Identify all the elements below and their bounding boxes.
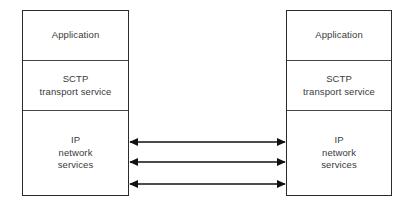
left-application-layer: Application [23,11,128,60]
right-endpoint-stack: Application SCTP transport service IP ne… [286,10,392,196]
left-transport-label-line1: SCTP [63,73,89,86]
right-transport-layer: SCTP transport service [287,60,391,110]
left-application-label: Application [52,29,100,42]
right-transport-label-line2: transport service [303,86,375,99]
right-network-label-line1: IP [334,134,343,147]
right-application-label: Application [315,29,363,42]
diagram-canvas: Application SCTP transport service IP ne… [0,0,413,210]
left-network-label-line2: network [59,147,93,160]
left-network-label-line1: IP [71,134,80,147]
right-application-layer: Application [287,11,391,60]
left-network-layer: IP network services [23,110,128,195]
right-transport-label-line1: SCTP [326,73,352,86]
network-path-connectors [129,10,286,196]
left-transport-label-line2: transport service [40,86,112,99]
right-network-layer: IP network services [287,110,391,195]
right-network-label-line2: network [322,147,356,160]
left-transport-layer: SCTP transport service [23,60,128,110]
right-network-label-line3: services [321,159,357,172]
left-network-label-line3: services [58,159,94,172]
left-endpoint-stack: Application SCTP transport service IP ne… [22,10,129,196]
